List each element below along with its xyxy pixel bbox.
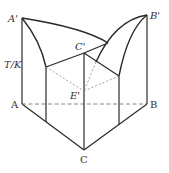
label-a-prime: A' bbox=[7, 13, 18, 24]
section-c-to-curve bbox=[84, 43, 108, 53]
base-edge-ac bbox=[22, 104, 84, 150]
dashed-left-to-e bbox=[46, 67, 84, 91]
label-a: A bbox=[10, 99, 19, 110]
dashed-curve-to-e bbox=[84, 62, 96, 91]
label-c: C bbox=[80, 154, 88, 165]
liquidus-curve-a-to-b bbox=[22, 18, 108, 43]
label-e-prime: E' bbox=[69, 90, 80, 101]
liquidus-curve-a-down bbox=[22, 18, 46, 67]
section-top-left bbox=[46, 53, 84, 67]
axis-label-temperature: T/K bbox=[4, 59, 22, 70]
label-b: B bbox=[150, 99, 157, 110]
section-top-right bbox=[84, 53, 119, 76]
base-edge-cb bbox=[84, 104, 147, 150]
liquidus-curve-b-inner bbox=[119, 15, 147, 76]
ternary-phase-diagram: A' B' C' E' T/K A B C bbox=[0, 0, 169, 173]
label-b-prime: B' bbox=[149, 10, 160, 21]
label-c-prime: C' bbox=[75, 41, 85, 52]
